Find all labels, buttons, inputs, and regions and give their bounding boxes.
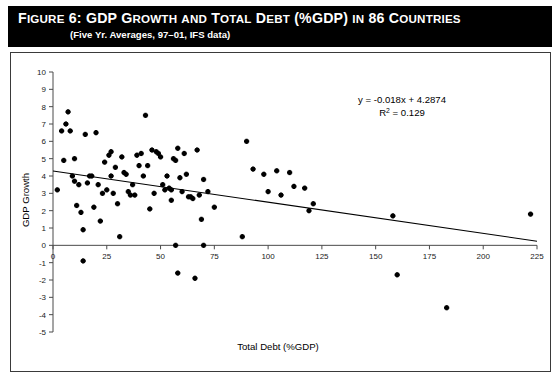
figure-root: FIGURE 6: GDP GROWTH AND TOTAL DEBT (%GD…	[0, 0, 560, 378]
figure-title-text: FIGURE 6: GDP GROWTH AND TOTAL DEBT (%GD…	[18, 10, 461, 26]
figure-title: FIGURE 6: GDP GROWTH AND TOTAL DEBT (%GD…	[18, 9, 552, 28]
plot-frame	[10, 52, 551, 372]
figure-subtitle: (Five Yr. Averages, 97–01, IFS data)	[18, 28, 552, 42]
figure-title-bar: FIGURE 6: GDP GROWTH AND TOTAL DEBT (%GD…	[8, 6, 552, 47]
